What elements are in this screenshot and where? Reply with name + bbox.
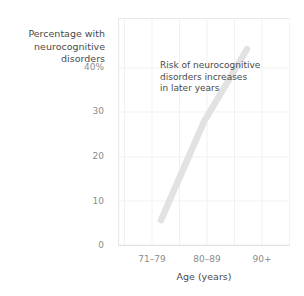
- chart-annotation: Risk of neurocognitive disorders increas…: [160, 60, 278, 95]
- plot-svg: [118, 18, 290, 246]
- plot-background: [118, 18, 290, 246]
- x-tick-label-80-89: 80–89: [177, 254, 237, 264]
- y-tick-label-30: 30: [70, 106, 104, 116]
- y-axis-label: Percentage with neurocognitive disorders: [8, 28, 105, 66]
- chart-figure: Percentage with neurocognitive disorders…: [0, 0, 304, 296]
- x-tick-label-71-79: 71–79: [122, 254, 182, 264]
- y-tick-label-10: 10: [70, 196, 104, 206]
- x-axis-label: Age (years): [118, 271, 290, 282]
- plot-area: [118, 18, 290, 246]
- y-tick-label-20: 20: [70, 151, 104, 161]
- y-tick-label-0: 0: [70, 240, 104, 250]
- y-tick-label-40: 40%: [70, 62, 104, 72]
- x-tick-label-90-plus: 90+: [232, 254, 292, 264]
